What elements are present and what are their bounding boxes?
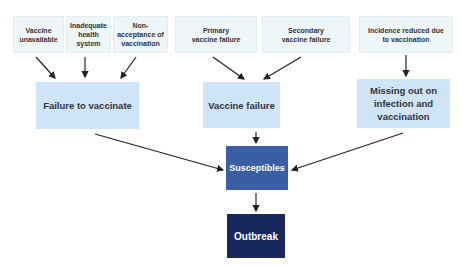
arrow-unavailable-to-ftv: [36, 57, 55, 78]
box-outbreak-label: Outbreak: [234, 231, 278, 242]
arrow-secondary-to-vf: [264, 57, 301, 79]
box-failure-to-vaccinate: Failure to vaccinate: [36, 82, 139, 129]
arrow-primary-to-vf: [213, 57, 244, 79]
box-incidence-reduced: Incidence reduced due to vaccination: [359, 16, 453, 53]
box-primary-vaccine-failure-label: Primary vaccine failure: [190, 26, 242, 44]
box-inadequate-health-system-label: Inadequate health system: [67, 21, 110, 48]
box-vaccine-unavailable-label: Vaccine unavailable: [14, 26, 63, 44]
box-primary-vaccine-failure: Primary vaccine failure: [175, 16, 257, 53]
arrow-missing-to-susc: [292, 133, 403, 170]
box-non-acceptance-label: Non-acceptance of vaccination: [114, 21, 167, 48]
box-missing-out-label: Missing out on infection and vaccination: [367, 84, 440, 123]
box-outbreak: Outbreak: [227, 214, 285, 258]
box-secondary-vaccine-failure: Secondary vaccine failure: [262, 16, 350, 53]
box-susceptibles: Susceptibles: [226, 146, 288, 190]
arrow-ftv-to-susc: [95, 134, 223, 170]
box-missing-out: Missing out on infection and vaccination: [357, 79, 450, 128]
box-vaccine-unavailable: Vaccine unavailable: [13, 16, 64, 53]
box-vaccine-failure: Vaccine failure: [203, 82, 280, 128]
box-non-acceptance: Non-acceptance of vaccination: [113, 16, 168, 53]
box-incidence-reduced-label: Incidence reduced due to vaccination: [364, 26, 448, 44]
box-vaccine-failure-label: Vaccine failure: [208, 99, 275, 112]
box-secondary-vaccine-failure-label: Secondary vaccine failure: [279, 26, 333, 44]
box-inadequate-health-system: Inadequate health system: [66, 16, 111, 53]
box-susceptibles-label: Susceptibles: [229, 163, 285, 173]
box-failure-to-vaccinate-label: Failure to vaccinate: [43, 99, 132, 112]
arrow-nonaccept-to-ftv: [121, 57, 136, 78]
